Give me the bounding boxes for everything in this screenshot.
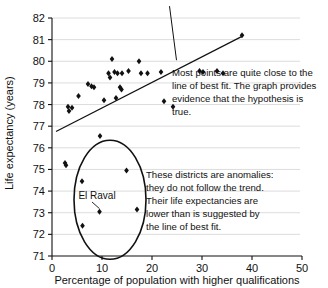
y-tick-label: 71 — [33, 250, 45, 262]
data-point — [162, 98, 167, 104]
annotation-line: the line of best fit. — [146, 221, 221, 232]
annotation-line: line of best fit. The graph provides — [172, 80, 317, 91]
annotation-line: Most points are quite close to the — [172, 67, 313, 78]
x-tick-label: 20 — [146, 262, 158, 274]
x-tick-label: 0 — [49, 262, 55, 274]
x-tick-label: 50 — [296, 262, 308, 274]
chart-canvas: 717273747576777879808182 01020304050 Lif… — [0, 0, 328, 288]
data-point — [126, 68, 131, 74]
data-point — [76, 93, 81, 99]
data-point — [120, 70, 125, 76]
y-tick-label: 80 — [33, 55, 45, 67]
annotation-line: they do not follow the trend. — [146, 182, 264, 193]
data-point — [80, 223, 85, 229]
svg-text:El Raval: El Raval — [78, 190, 115, 201]
y-tick-label: 82 — [33, 12, 45, 24]
el-raval-callout: El Raval — [78, 190, 115, 209]
data-point — [135, 206, 140, 212]
data-point — [98, 133, 103, 139]
annotation-anomaly-note: These districts are anomalies:they do no… — [146, 169, 273, 232]
y-tick-label: 73 — [33, 207, 45, 219]
data-point — [97, 209, 102, 215]
y-axis: 717273747576777879808182 — [33, 12, 52, 262]
data-point — [137, 58, 142, 64]
x-axis: 01020304050 — [49, 256, 308, 274]
svg-text:Life expectancy (years): Life expectancy (years) — [3, 76, 15, 190]
y-tick-label: 74 — [33, 185, 45, 197]
y-tick-label: 75 — [33, 163, 45, 175]
x-tick-label: 40 — [246, 262, 258, 274]
y-tick-label: 72 — [33, 228, 45, 240]
data-point — [124, 168, 129, 174]
annotation-line: These districts are anomalies: — [146, 169, 273, 180]
data-point — [139, 70, 144, 76]
annotation-line: evidence that the hypothesis is — [172, 93, 303, 104]
data-point — [80, 178, 85, 184]
annotation-line: Their life expectancies are — [146, 195, 258, 206]
x-tick-label: 10 — [96, 262, 108, 274]
data-point — [102, 97, 107, 103]
y-tick-label: 76 — [33, 142, 45, 154]
data-point — [159, 69, 164, 75]
annotation-line: lower than is suggested by — [146, 208, 260, 219]
y-tick-label: 78 — [33, 99, 45, 111]
y-tick-label: 79 — [33, 77, 45, 89]
scatter-chart: 717273747576777879808182 01020304050 Lif… — [0, 0, 328, 288]
data-point — [145, 70, 150, 76]
leader-line-top — [170, 6, 177, 60]
y-tick-label: 81 — [33, 34, 45, 46]
svg-text:Percentage of population with: Percentage of population with higher qua… — [54, 274, 300, 286]
y-tick-label: 77 — [33, 120, 45, 132]
annotation-best-fit-note: Most points are quite close to theline o… — [172, 67, 317, 117]
x-axis-title: Percentage of population with higher qua… — [54, 274, 300, 286]
y-axis-title: Life expectancy (years) — [3, 76, 15, 190]
annotation-line: true. — [172, 106, 191, 117]
x-tick-label: 30 — [196, 262, 208, 274]
